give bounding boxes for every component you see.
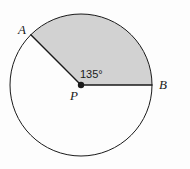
center-point-dot — [78, 82, 84, 88]
point-label-b: B — [159, 78, 167, 91]
point-label-a: A — [18, 23, 26, 36]
angle-measure-label: 135° — [80, 69, 103, 80]
circle-sector-diagram: A B P 135° — [0, 0, 190, 169]
center-label-p: P — [70, 89, 78, 102]
